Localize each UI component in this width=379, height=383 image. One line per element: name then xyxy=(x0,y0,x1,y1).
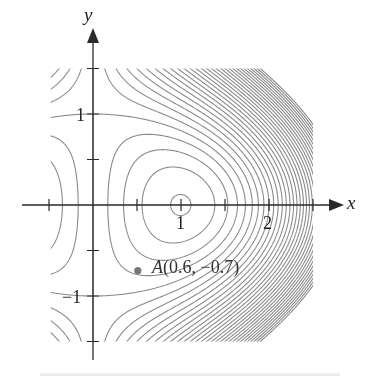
point-a-coords: (0.6, −0.7) xyxy=(163,257,239,277)
x-tick-label-2: 2 xyxy=(263,214,272,232)
point-a-name: A xyxy=(152,257,163,277)
point-a-label: A(0.6, −0.7) xyxy=(152,258,239,276)
y-axis-label: y xyxy=(84,5,92,24)
bottom-divider xyxy=(40,373,340,376)
x-axis-label: x xyxy=(347,193,355,212)
x-tick-label-1: 1 xyxy=(176,214,185,232)
contour-plot xyxy=(0,0,379,383)
y-tick-label-minus-1: −1 xyxy=(62,288,81,306)
y-tick-label-1: 1 xyxy=(76,106,85,124)
